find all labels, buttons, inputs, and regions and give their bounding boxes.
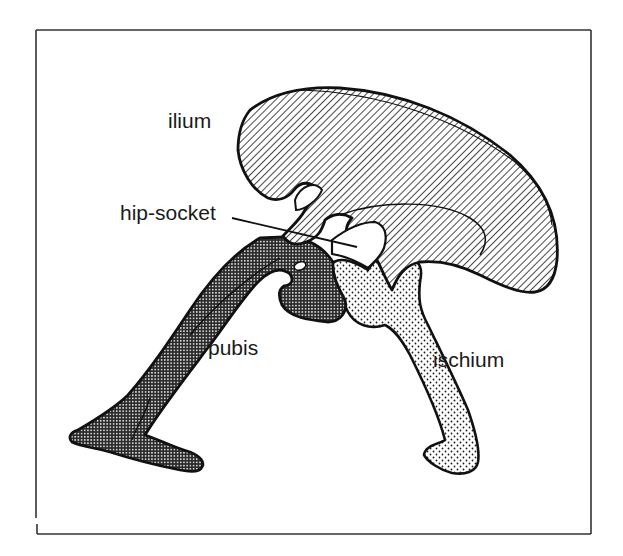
pelvis-diagram — [0, 0, 623, 556]
label-hip-socket: hip-socket — [120, 202, 216, 223]
label-ilium: ilium — [168, 110, 211, 131]
label-ischium: ischium — [433, 349, 504, 370]
label-pubis: pubis — [208, 337, 258, 358]
